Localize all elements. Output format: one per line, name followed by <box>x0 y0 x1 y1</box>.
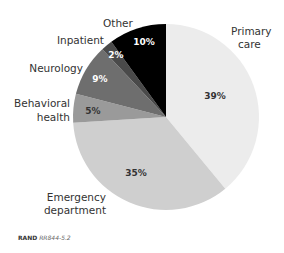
pct-inpatient: 2% <box>108 50 123 60</box>
pct-other: 10% <box>133 37 155 47</box>
label-primary-care-line2: care <box>238 38 261 50</box>
figure-source-note: RAND RR844-5.2 <box>18 234 71 241</box>
pct-neurology: 9% <box>92 74 107 84</box>
label-emergency-line2: department <box>44 204 106 216</box>
label-behavioral-line1: Behavioral <box>14 97 70 109</box>
label-emergency-line1: Emergency <box>47 191 106 203</box>
pct-primary-care: 39% <box>204 91 226 101</box>
footer-id: RR844-5.2 <box>39 234 71 241</box>
pie-slices <box>73 24 259 210</box>
label-primary-care-line1: Primary <box>231 25 272 37</box>
pct-emergency: 35% <box>125 168 147 178</box>
footer-org: RAND <box>18 234 37 241</box>
pct-behavioral: 5% <box>85 106 100 116</box>
label-inpatient: Inpatient <box>57 34 104 46</box>
pie-chart: 39% 35% 5% 9% 2% 10% Primary care Emerge… <box>0 0 284 225</box>
label-other: Other <box>103 17 133 29</box>
label-behavioral-line2: health <box>37 111 70 123</box>
label-neurology: Neurology <box>29 62 83 74</box>
